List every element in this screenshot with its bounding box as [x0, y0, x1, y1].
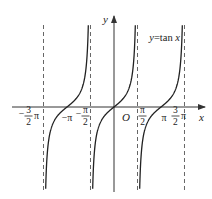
- x-tick-label: π: [161, 112, 166, 123]
- curve-label: y=tan x: [148, 32, 180, 43]
- asymptote-label: 32π: [171, 105, 186, 127]
- svg-text:π: π: [181, 110, 186, 121]
- svg-text:2: 2: [26, 117, 31, 127]
- svg-text:2: 2: [140, 117, 145, 127]
- svg-text:π: π: [83, 105, 88, 115]
- svg-text:2: 2: [83, 117, 88, 127]
- svg-text:2: 2: [173, 117, 178, 127]
- svg-text:π: π: [140, 105, 145, 115]
- svg-text:3: 3: [173, 105, 178, 115]
- svg-text:π: π: [34, 110, 39, 121]
- asymptote-label: −32π: [19, 105, 39, 127]
- asymptote-label: −π2: [76, 105, 90, 127]
- asymptote-label: π2: [139, 105, 147, 127]
- x-axis-label: x: [198, 111, 204, 123]
- tan-graph: xyOy=tan x−ππ−32π−π2π232π: [0, 0, 212, 199]
- x-tick-label: −π: [62, 112, 73, 123]
- y-axis-label: y: [102, 13, 108, 25]
- origin-label: O: [122, 111, 130, 123]
- svg-text:−: −: [76, 108, 82, 119]
- svg-text:−: −: [19, 108, 25, 119]
- svg-text:3: 3: [26, 105, 31, 115]
